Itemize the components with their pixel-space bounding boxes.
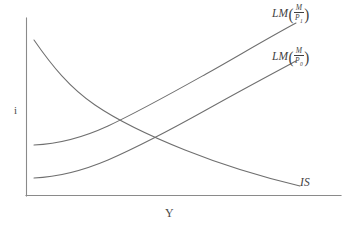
curve-lm-low [34,61,296,178]
fraction-numerator: M [295,4,303,12]
lm-low-name: LM [272,51,288,63]
paren-close: ) [304,48,309,65]
curves-group [34,23,300,186]
y-axis-label: i [14,104,17,116]
money-real-balance-fraction: M P0 [294,47,304,67]
money-real-balance-fraction: M P1 [294,4,304,24]
fraction-denominator: P1 [294,14,304,24]
curve-is [34,40,300,186]
islm-diagram: i Y LM ( M P1 ) LM ( M P0 ) IS [0,0,343,231]
axes-group [26,18,341,196]
paren-close: ) [304,5,309,22]
curve-label-lm-high: LM ( M P1 ) [272,4,310,24]
lm-high-name: LM [272,8,288,20]
fraction-numerator: M [295,47,303,55]
islm-plot-area [0,0,343,231]
curve-label-lm-low: LM ( M P0 ) [272,47,310,67]
curve-label-is: IS [300,176,310,188]
paren-open: ( [288,48,293,65]
fraction-denominator: P0 [294,57,304,67]
paren-open: ( [288,5,293,22]
curve-lm-high [34,23,296,145]
x-axis-label: Y [165,206,174,221]
